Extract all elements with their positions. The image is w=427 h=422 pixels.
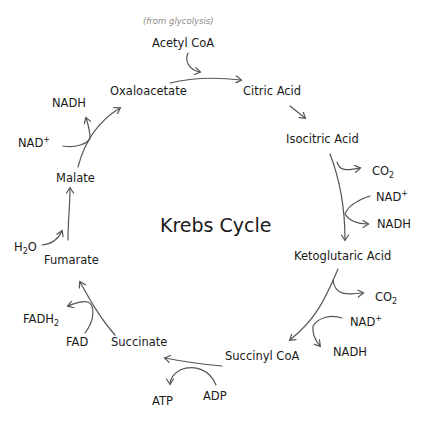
co2-release-arrow-2	[333, 280, 363, 294]
isocitric-acid-label: Isocitric Acid	[286, 132, 359, 146]
glycolysis-annotation: (from glycolysis)	[143, 16, 214, 26]
nadh-2-label: NADH	[333, 345, 367, 359]
succinyl-to-succinate-arrow	[165, 358, 222, 366]
oxaloacetate-to-citric-arrow	[170, 78, 241, 83]
nad-to-nadh-arrow-3	[63, 118, 90, 147]
adp-label: ADP	[203, 389, 227, 403]
nadh-1-label: NADH	[377, 217, 411, 231]
ketoglutaric-to-succinyl-arrow	[290, 269, 338, 340]
atp-label: ATP	[152, 394, 173, 408]
adp-to-atp-arrow	[170, 368, 216, 385]
citric-acid-label: Citric Acid	[243, 84, 301, 98]
fumarate-label: Fumarate	[44, 253, 99, 267]
co2-2-label: CO2	[375, 290, 397, 306]
oxaloacetate-label: Oxaloacetate	[110, 84, 187, 98]
acetyl-coa-arrow	[187, 53, 200, 72]
isocitric-to-ketoglutaric-arrow	[330, 154, 345, 240]
krebs-cycle-diagram: Krebs Cycle (from glycolysis) Acetyl CoA…	[0, 0, 427, 422]
fad-to-fadh2-arrow	[68, 301, 93, 333]
malate-label: Malate	[56, 171, 95, 185]
nad-to-nadh-arrow-1	[345, 196, 370, 224]
water-input-arrow	[42, 231, 62, 245]
co2-release-arrow-1	[337, 162, 360, 170]
h2o-label: H2O	[14, 240, 37, 256]
fadh2-label: FADH2	[23, 312, 59, 328]
acetyl-coa-label: Acetyl CoA	[152, 36, 214, 50]
succinate-to-fumarate-arrow	[80, 282, 115, 335]
nad-to-nadh-arrow-2	[313, 316, 342, 346]
succinate-label: Succinate	[111, 335, 167, 349]
succinyl-coa-label: Succinyl CoA	[225, 349, 299, 363]
citric-to-isocitric-arrow	[290, 106, 305, 118]
fumarate-to-malate-arrow	[68, 188, 70, 240]
nad-2-label: NAD+	[350, 314, 382, 329]
co2-1-label: CO2	[372, 164, 394, 180]
ketoglutaric-acid-label: Ketoglutaric Acid	[294, 249, 391, 263]
nad-3-label: NAD+	[18, 135, 50, 150]
diagram-title: Krebs Cycle	[160, 214, 271, 236]
nad-1-label: NAD+	[376, 189, 408, 204]
fad-label: FAD	[66, 335, 88, 349]
malate-to-oxaloacetate-arrow	[78, 108, 120, 167]
nadh-3-label: NADH	[52, 96, 86, 110]
